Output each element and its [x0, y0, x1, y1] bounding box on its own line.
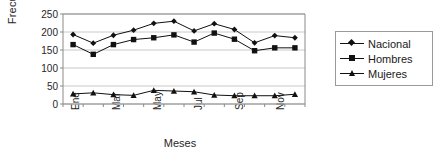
series-line-hombres [73, 33, 295, 54]
diamond-marker-icon [111, 32, 117, 38]
diamond-marker-icon [191, 28, 197, 34]
square-marker-icon [232, 37, 237, 42]
diamond-marker-icon [272, 33, 278, 39]
triangle-marker-icon [340, 68, 364, 79]
legend-label-nacional: Nacional [364, 38, 411, 50]
legend: Nacional Hombres Mujeres [335, 31, 433, 86]
square-marker-icon [151, 35, 156, 40]
diamond-marker-icon [292, 35, 298, 41]
square-marker-icon [340, 53, 364, 64]
square-marker-icon [191, 39, 196, 44]
square-marker-icon [212, 30, 217, 35]
square-marker-icon [272, 45, 277, 50]
diamond-marker-icon [340, 38, 364, 49]
square-marker-icon [171, 32, 176, 37]
square-marker-icon [91, 52, 96, 57]
square-marker-icon [70, 42, 75, 47]
legend-item-nacional[interactable]: Nacional [340, 36, 429, 51]
square-marker-icon [292, 45, 297, 50]
diamond-marker-icon [211, 21, 217, 27]
diamond-marker-icon [252, 40, 258, 46]
legend-item-mujeres[interactable]: Mujeres [340, 66, 429, 81]
series-line-mujeres [73, 90, 295, 95]
line-chart: Frecuencia Meses 250 200 150 100 50 0 En… [0, 0, 439, 158]
diamond-marker-icon [151, 20, 157, 26]
legend-item-hombres[interactable]: Hombres [340, 51, 429, 66]
square-marker-icon [131, 37, 136, 42]
square-marker-icon [252, 48, 257, 53]
legend-label-hombres: Hombres [364, 53, 413, 65]
legend-label-mujeres: Mujeres [364, 68, 407, 80]
diamond-marker-icon [171, 18, 177, 24]
diamond-marker-icon [90, 40, 96, 46]
square-marker-icon [111, 42, 116, 47]
